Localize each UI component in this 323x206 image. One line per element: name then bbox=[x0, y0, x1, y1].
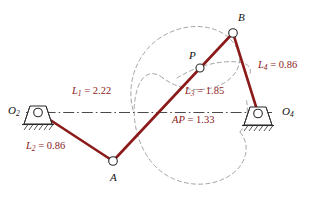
label-point-p: P bbox=[189, 50, 196, 61]
label-dimension-l1: L1 = 2.22 bbox=[72, 86, 111, 97]
ground-support-o4 bbox=[242, 107, 274, 131]
o4-hatching bbox=[244, 126, 273, 132]
coupler-curve-inner-arc bbox=[177, 62, 251, 78]
label-point-o2: O2 bbox=[8, 105, 20, 117]
o2-hatching bbox=[24, 125, 53, 131]
links-group bbox=[38, 33, 258, 161]
link-L4-rocker bbox=[233, 33, 258, 113]
joint-b bbox=[229, 29, 238, 38]
label-dimension-l4: L4 = 0.86 bbox=[258, 60, 297, 71]
label-dimension-l2: L2 = 0.86 bbox=[26, 141, 65, 152]
linkage-canvas bbox=[0, 0, 323, 206]
label-point-a: A bbox=[110, 172, 117, 183]
coupler-curve-right-tail bbox=[240, 98, 247, 132]
coupler-point-p bbox=[196, 64, 204, 72]
joint-a bbox=[109, 157, 118, 166]
linkage-diagram: O2 O4 A B P L1 = 2.22 L2 = 0.86 L3 = 1.8… bbox=[0, 0, 323, 206]
label-point-o4: O4 bbox=[282, 106, 294, 118]
label-dimension-ap: AP = 1.33 bbox=[172, 115, 214, 126]
o2-pivot-joint bbox=[34, 108, 43, 117]
ground-support-o2 bbox=[22, 106, 54, 130]
label-point-b: B bbox=[238, 12, 245, 23]
coupler-curve-upper-loop bbox=[131, 26, 240, 110]
label-dimension-l3: L3 = 1.85 bbox=[185, 86, 224, 97]
o4-pivot-joint bbox=[254, 109, 263, 118]
